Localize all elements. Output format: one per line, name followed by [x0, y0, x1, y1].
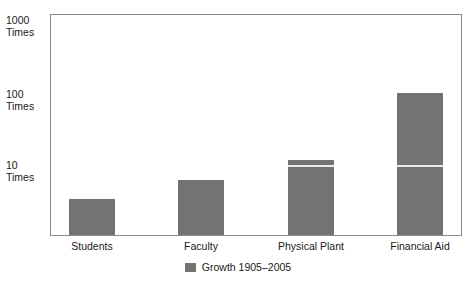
bar-students[interactable] [69, 199, 115, 235]
x-axis-label-physical-plant: Physical Plant [261, 240, 361, 253]
bar-faculty[interactable] [178, 180, 224, 235]
y-axis-tick-100: 100 Times [6, 88, 48, 112]
chart-page: 1000 Times 100 Times 10 Times Students F… [0, 0, 476, 283]
bar-divider-physical-plant [288, 165, 334, 167]
y-axis-tick-1000: 1000 Times [6, 14, 48, 38]
bar-divider-financial-aid [397, 165, 443, 167]
legend-label-growth: Growth 1905–2005 [202, 261, 291, 273]
bar-financial-aid[interactable] [397, 93, 443, 235]
bar-physical-plant[interactable] [288, 160, 334, 235]
legend-swatch-growth [185, 263, 196, 272]
y-axis-tick-10: 10 Times [6, 159, 48, 183]
chart-legend: Growth 1905–2005 [0, 261, 476, 273]
x-axis-label-faculty: Faculty [156, 240, 246, 253]
x-axis-label-students: Students [47, 240, 137, 253]
x-axis-label-financial-aid: Financial Aid [372, 240, 468, 253]
